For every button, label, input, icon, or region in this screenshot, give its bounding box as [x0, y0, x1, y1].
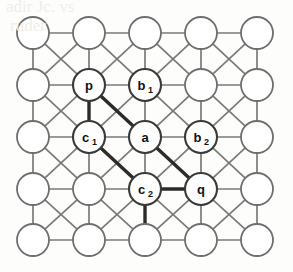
node-label: p	[85, 78, 93, 93]
node	[185, 17, 217, 49]
labeled-node: b2	[185, 121, 217, 153]
bold-edge-layer	[89, 95, 190, 225]
node-label: c	[82, 130, 89, 145]
labeled-node: p	[73, 69, 105, 101]
node	[73, 173, 105, 205]
labeled-node: a	[129, 121, 161, 153]
labeled-node: c2	[129, 173, 161, 205]
node	[241, 121, 273, 153]
node-label-subscript: 2	[204, 137, 209, 147]
node-circle	[17, 173, 49, 205]
node	[17, 224, 49, 256]
node-circle	[241, 173, 273, 205]
node	[241, 69, 273, 101]
node-circle	[185, 17, 217, 49]
grid-graph-diagram: pb1c1ab2c2q	[0, 0, 293, 272]
labeled-node: b1	[129, 69, 161, 101]
node-circle	[17, 121, 49, 153]
node	[185, 224, 217, 256]
node-circle	[73, 17, 105, 49]
node	[17, 173, 49, 205]
node-circle	[241, 17, 273, 49]
node-label: b	[138, 78, 146, 93]
node-circle	[241, 69, 273, 101]
node	[241, 224, 273, 256]
node	[129, 224, 161, 256]
node-label-subscript: 1	[148, 85, 153, 95]
node-circle	[185, 69, 217, 101]
node-label: a	[141, 130, 149, 145]
node-label: q	[197, 182, 205, 197]
node-circle	[17, 17, 49, 49]
node	[241, 173, 273, 205]
node-circle	[185, 224, 217, 256]
node-label-subscript: 2	[148, 189, 153, 199]
figure-root: adir Jc. vs ruder pb1c1ab2c2q	[0, 0, 293, 272]
node-circle	[17, 224, 49, 256]
node-circle	[73, 224, 105, 256]
node-label-subscript: 1	[92, 137, 97, 147]
node-circle	[241, 224, 273, 256]
node-circle	[17, 69, 49, 101]
node-label: b	[194, 130, 202, 145]
node-circle	[129, 17, 161, 49]
node-circle	[241, 121, 273, 153]
node	[73, 17, 105, 49]
node-circle	[129, 224, 161, 256]
node	[17, 121, 49, 153]
node	[17, 17, 49, 49]
node	[185, 69, 217, 101]
node	[241, 17, 273, 49]
node	[129, 17, 161, 49]
labeled-node: q	[185, 173, 217, 205]
node	[73, 224, 105, 256]
node	[17, 69, 49, 101]
node-circle	[73, 173, 105, 205]
node-label: c	[138, 182, 145, 197]
labeled-node: c1	[73, 121, 105, 153]
